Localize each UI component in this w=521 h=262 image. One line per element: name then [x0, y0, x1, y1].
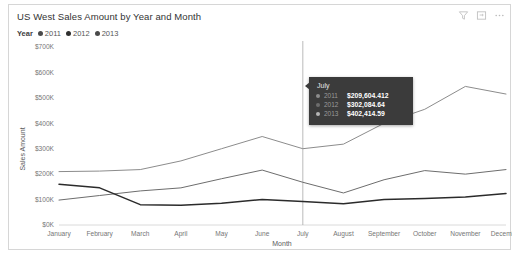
legend: Year 2011 2012 2013 — [17, 29, 118, 38]
x-axis-tick: January — [47, 230, 71, 238]
tooltip-year-2011: 2011 — [324, 92, 343, 99]
tooltip-value-2013: $402,414.59 — [347, 110, 385, 117]
tooltip-pointer — [305, 82, 310, 90]
x-axis-tick: December — [491, 230, 512, 237]
x-axis-tick: February — [86, 230, 113, 238]
tooltip-dot-2013 — [316, 112, 320, 116]
y-axis-title: Sales Amount — [19, 127, 26, 170]
focus-mode-icon[interactable] — [476, 10, 487, 21]
x-axis-tick: August — [333, 230, 354, 238]
legend-dot-2011 — [38, 31, 43, 36]
plot-area[interactable]: $0K$100K$200K$300K$400K$500K$600K$700K J… — [9, 39, 512, 251]
page-title: US West Sales Amount by Year and Month — [17, 11, 201, 22]
y-axis-tick: $100K — [35, 196, 55, 203]
x-axis-tick: May — [215, 230, 228, 238]
tooltip-row: 2013$402,414.59 — [316, 110, 407, 117]
tooltip-dot-2012 — [316, 103, 320, 107]
line-chart-visual: US West Sales Amount by Year and Month Y… — [8, 4, 511, 250]
tooltip-value-2011: $209,604.412 — [347, 92, 389, 99]
legend-item-2013[interactable]: 2013 — [95, 29, 119, 38]
more-options-icon[interactable] — [494, 10, 505, 21]
x-axis-tick: April — [174, 230, 188, 238]
series-line-2013[interactable] — [59, 184, 506, 205]
x-axis-tick: March — [131, 230, 150, 237]
chart-canvas: $0K$100K$200K$300K$400K$500K$600K$700K J… — [9, 39, 512, 251]
visual-header-actions — [458, 10, 505, 21]
x-axis-tick-labels: JanuaryFebruaryMarchAprilMayJuneJulyAugu… — [47, 230, 512, 238]
series-line-2011[interactable] — [59, 86, 506, 171]
y-axis-tick: $0K — [42, 221, 54, 228]
legend-dot-2013 — [95, 31, 100, 36]
y-axis-tick-labels: $0K$100K$200K$300K$400K$500K$600K$700K — [35, 43, 55, 228]
tooltip-row: 2012$302,084.64 — [316, 101, 407, 108]
series-line-2012[interactable] — [59, 170, 506, 201]
y-axis-tick: $500K — [35, 94, 55, 101]
y-axis-tick: $300K — [35, 145, 55, 152]
y-axis-tick: $200K — [35, 170, 55, 177]
series-lines — [59, 86, 506, 205]
y-axis-tick: $400K — [35, 120, 55, 127]
x-axis-tick: July — [297, 230, 309, 238]
legend-label-2011: 2011 — [45, 29, 61, 38]
x-axis-tick: June — [255, 230, 270, 237]
legend-dot-2012 — [66, 31, 71, 36]
legend-title: Year — [17, 29, 33, 38]
tooltip-year-2012: 2012 — [324, 101, 343, 108]
tooltip-rows: 2011$209,604.4122012$302,084.642013$402,… — [316, 92, 407, 117]
legend-label-2013: 2013 — [102, 29, 119, 38]
tooltip-year-2013: 2013 — [324, 110, 343, 117]
legend-label-2012: 2012 — [73, 29, 90, 38]
x-axis-tick: October — [413, 230, 437, 237]
y-axis-tick: $600K — [35, 69, 55, 76]
filter-icon[interactable] — [458, 10, 469, 21]
x-axis-tick: September — [368, 230, 401, 238]
legend-item-2012[interactable]: 2012 — [66, 29, 90, 38]
y-axis-tick: $700K — [35, 43, 55, 50]
x-axis-title: Month — [272, 240, 292, 247]
tooltip-value-2012: $302,084.64 — [347, 101, 385, 108]
tooltip-header: July — [316, 82, 407, 89]
tooltip: July 2011$209,604.4122012$302,084.642013… — [309, 77, 413, 125]
tooltip-dot-2011 — [316, 94, 320, 98]
tooltip-row: 2011$209,604.412 — [316, 92, 407, 99]
x-axis-tick: November — [450, 230, 481, 237]
legend-item-2011[interactable]: 2011 — [38, 29, 61, 38]
